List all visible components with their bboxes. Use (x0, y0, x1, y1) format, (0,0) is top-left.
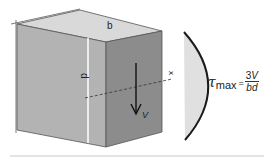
beam-side-face (106, 31, 162, 147)
beam-shear-diagram: b d x V τ max = 3V bd (0, 0, 271, 158)
label-b: b (107, 20, 113, 31)
max-shear-formula: τ max = 3V bd (208, 70, 259, 93)
fraction: 3V bd (245, 70, 259, 93)
max-subscript: max (216, 79, 237, 91)
beam-front-face (17, 24, 106, 147)
label-v: V (142, 110, 149, 120)
label-d: d (79, 73, 90, 79)
equals-sign: = (239, 78, 244, 88)
tau-symbol: τ (208, 74, 216, 90)
numerator-var: V (251, 70, 258, 81)
numerator: 3V (245, 70, 259, 82)
label-x: x (167, 71, 176, 75)
denominator: bd (245, 82, 258, 93)
